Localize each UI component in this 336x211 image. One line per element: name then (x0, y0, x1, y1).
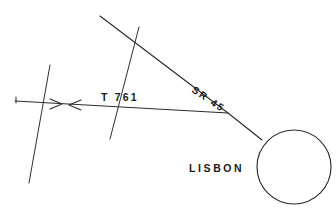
city-label-lisbon: LISBON (189, 162, 244, 174)
cross-road-center-line (110, 27, 139, 139)
road-sr45-line (100, 16, 262, 140)
map-line-art (0, 0, 336, 211)
route-label-t761: T 761 (101, 91, 139, 103)
cross-road-west-line (29, 65, 50, 183)
lisbon-circle (257, 130, 331, 204)
road-map-figure: T 761 SR 45 LISBON (0, 0, 336, 211)
